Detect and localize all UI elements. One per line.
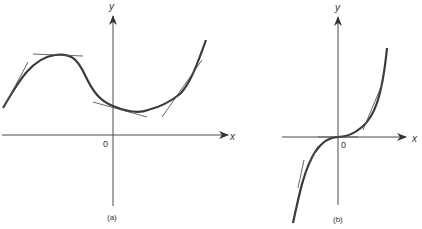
figure-canvas: y x 0 (a) y x 0 (b) [0,0,422,229]
y-axis-label-b: y [334,2,341,13]
tangent-line [93,102,147,117]
tangent-line [4,62,28,107]
x-axis-label-b: x [411,133,418,144]
panel-b: y x 0 (b) [282,2,418,224]
panel-a: y x 0 (a) [2,1,236,222]
x-axis-label-a: x [229,131,236,142]
caption-a: (a) [107,213,117,222]
y-axis-label-a: y [108,1,115,12]
origin-label-b: 0 [341,140,346,150]
tangent-line [310,146,318,163]
origin-label-a: 0 [103,139,108,149]
tangent-line [162,60,202,117]
curve-a [3,40,206,112]
tangent-line [363,82,383,130]
curve-b [293,48,387,223]
caption-b: (b) [333,215,343,224]
